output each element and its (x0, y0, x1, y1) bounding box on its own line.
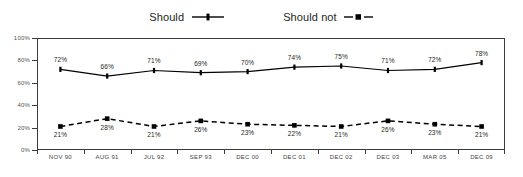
data-label: 69% (194, 60, 207, 67)
y-axis-tick-labels: 0%20%40%60%80%100% (0, 38, 34, 150)
x-axis-tick-label: JUL 92 (144, 154, 165, 160)
y-axis-tick-label: 0% (21, 147, 30, 153)
data-label: 70% (241, 59, 254, 66)
x-axis-tick-label: SEP 93 (190, 154, 212, 160)
legend-entry-should-not[interactable]: Should not (283, 11, 374, 23)
legend-label-should: Should (149, 11, 184, 23)
legend-key-solid-line-icon (191, 12, 225, 22)
data-label: 21% (475, 131, 488, 138)
legend-key-dashed-line-square-icon (344, 12, 374, 22)
data-label: 23% (428, 129, 441, 136)
data-label: 71% (381, 57, 394, 64)
y-axis-tick-label: 80% (17, 57, 30, 63)
data-label: 26% (381, 126, 394, 133)
legend-entry-should[interactable]: Should (149, 11, 225, 23)
x-axis-tick-label: NOV 90 (49, 154, 72, 160)
data-label: 72% (428, 56, 441, 63)
data-label: 28% (101, 124, 114, 131)
x-axis-tick-label: AUG 91 (96, 154, 119, 160)
y-axis-tick-label: 60% (17, 80, 30, 86)
data-label: 74% (288, 54, 301, 61)
data-label-layer: 72%66%71%69%70%74%75%71%72%78%21%28%21%2… (37, 38, 505, 150)
x-axis-tick-label: DEC 03 (377, 154, 400, 160)
x-axis-tick-label: DEC 02 (330, 154, 353, 160)
data-label: 75% (335, 53, 348, 60)
data-label: 66% (101, 63, 114, 70)
data-label: 72% (54, 56, 67, 63)
chart-legend: Should Should not (0, 8, 523, 26)
data-label: 21% (147, 131, 160, 138)
legend-label-should-not: Should not (283, 11, 337, 23)
data-label: 78% (475, 50, 488, 57)
x-axis-tick-label: DEC 09 (470, 154, 493, 160)
data-label: 22% (288, 130, 301, 137)
data-label: 26% (194, 126, 207, 133)
y-axis-tick-label: 100% (14, 35, 30, 41)
data-label: 21% (335, 131, 348, 138)
x-axis-tick-label: MAR 05 (423, 154, 446, 160)
x-axis-tick-label: DEC 00 (236, 154, 259, 160)
x-axis-tick-labels: NOV 90AUG 91JUL 92SEP 93DEC 00DEC 01DEC … (37, 154, 505, 168)
data-label: 21% (54, 131, 67, 138)
data-label: 71% (147, 57, 160, 64)
x-axis-tick-label: DEC 01 (283, 154, 306, 160)
y-axis-tick-label: 20% (17, 125, 30, 131)
data-label: 23% (241, 129, 254, 136)
line-chart: Should Should not 0%20%40%60%80%100% 72%… (0, 0, 523, 177)
y-axis-tick-label: 40% (17, 102, 30, 108)
